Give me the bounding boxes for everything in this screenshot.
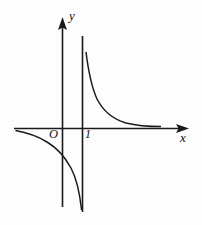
x-tick-label-1: 1 [85,128,91,140]
origin-label: O [49,128,58,141]
hyperbola-figure: y x O 1 [0,0,202,225]
curve-lower-left-branch [16,131,82,210]
x-axis-label: x [180,131,186,144]
graph-canvas [0,0,202,225]
curve-upper-right-branch [86,52,161,127]
y-axis-label: y [69,9,75,22]
